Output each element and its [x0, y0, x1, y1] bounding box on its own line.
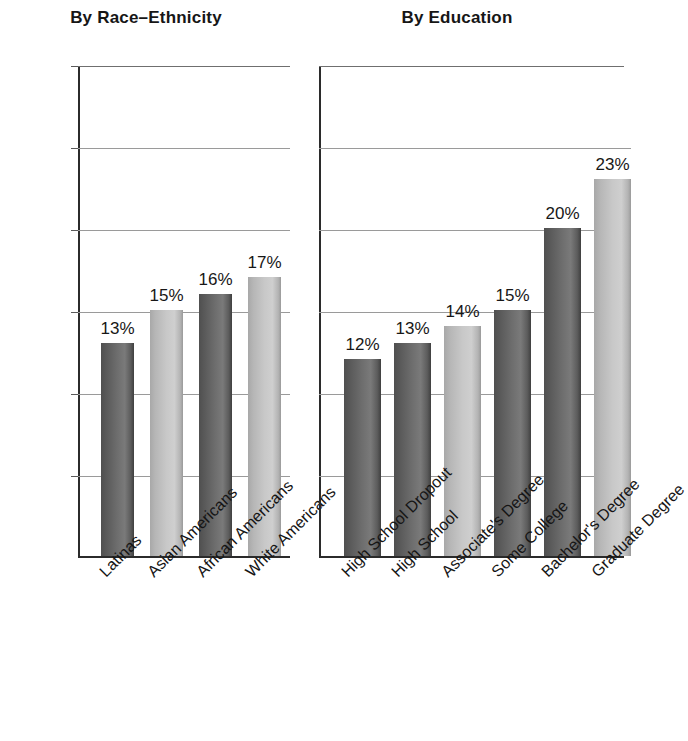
gridline-20 [78, 230, 290, 231]
gridline-30 [78, 66, 290, 67]
bar-value-african-americans: 16% [198, 270, 232, 290]
bar-value-latinas: 13% [100, 319, 134, 339]
tick-10 [71, 394, 78, 395]
plot-area-race-ethnicity: 13% 15% 16% 17% [78, 66, 290, 558]
chart-title-education: By Education [294, 8, 620, 28]
plot-area-education: 12% 13% 14% 15% 20% 23% [319, 66, 624, 558]
bar-value-high-school-dropout: 12% [345, 335, 379, 355]
bar-value-some-college: 15% [495, 286, 529, 306]
bar-high-school-dropout: 12% [344, 359, 381, 556]
bar-value-asian-americans: 15% [149, 286, 183, 306]
bar-value-bachelors-degree: 20% [545, 204, 579, 224]
tick-15 [71, 312, 78, 313]
tick-edu-25 [624, 148, 631, 149]
bar-asian-americans: 15% [150, 310, 183, 556]
bar-value-high-school: 13% [395, 319, 429, 339]
tick-30 [71, 66, 78, 67]
tick-5 [71, 476, 78, 477]
tick-25 [71, 148, 78, 149]
gridline-25 [78, 148, 290, 149]
bar-latinas: 13% [101, 343, 134, 556]
chart-title-race-ethnicity: By Race–Ethnicity [6, 8, 286, 28]
bar-value-graduate-degree: 23% [595, 155, 629, 175]
bar-value-associates-degree: 14% [445, 302, 479, 322]
gridline-edu-25 [319, 148, 624, 149]
chart-panel-education: By Education 12% 13% 14% 15% 20% 23% Hig… [300, 0, 626, 741]
chart-panel-race-ethnicity: By Race–Ethnicity 13% 15% 16% 17% 30% 25… [0, 0, 300, 741]
gridline-edu-30 [319, 66, 624, 67]
bar-value-white-americans: 17% [247, 253, 281, 273]
tick-20 [71, 230, 78, 231]
